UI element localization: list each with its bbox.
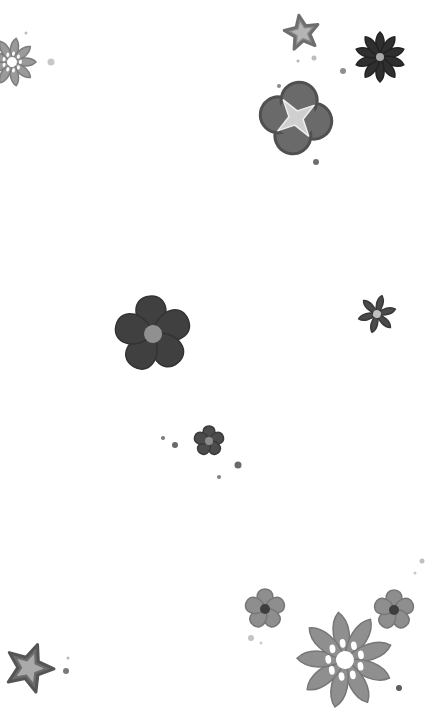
- flower-pattern-canvas: [0, 0, 439, 725]
- dot: [313, 159, 319, 165]
- flower-center: [389, 605, 399, 615]
- dot: [260, 642, 263, 645]
- decorative-flowers: [0, 12, 415, 714]
- dot: [67, 657, 70, 660]
- dot: [48, 59, 55, 66]
- decorative-dots: [25, 32, 425, 692]
- flower-bottom-right-5petal-icon: [373, 590, 416, 631]
- dot: [161, 436, 165, 440]
- flower-center: [205, 437, 213, 445]
- dot: [277, 84, 281, 88]
- flower-center: [260, 604, 270, 614]
- flower-clover-star-icon: [254, 76, 337, 159]
- flower-center-small-icon: [193, 426, 225, 457]
- flower-top-star-icon: [282, 12, 321, 50]
- dot: [312, 56, 317, 61]
- dot: [25, 32, 28, 35]
- flower-bottom-left-star-icon: [0, 636, 60, 695]
- flower-right-small-star-icon: [355, 291, 400, 337]
- dot: [172, 442, 178, 448]
- dot: [414, 572, 417, 575]
- flower-bottom-left-5petal-icon: [244, 589, 287, 630]
- dot: [63, 668, 69, 674]
- flower-top-dark-daisy-icon: [355, 32, 405, 82]
- flower-mid-dark-5petal-icon: [109, 293, 197, 377]
- dot: [340, 68, 346, 74]
- dot: [420, 559, 425, 564]
- dot: [248, 635, 254, 641]
- dot: [297, 60, 300, 63]
- dot: [217, 475, 221, 479]
- flower-topleft-daisy-icon: [0, 34, 40, 90]
- dot: [396, 685, 402, 691]
- flower-center: [376, 53, 384, 61]
- dot: [235, 462, 242, 469]
